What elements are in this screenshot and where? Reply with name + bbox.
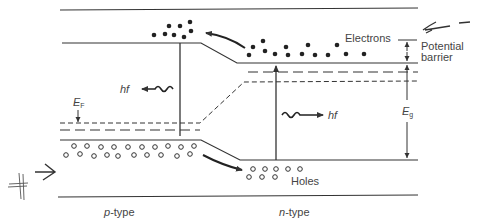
fermi-level [60, 81, 418, 123]
fermi-level-subscript: F [80, 102, 84, 109]
valence-band-edge [60, 140, 418, 160]
photon-left-icon [142, 87, 173, 92]
photon-right-icon [282, 113, 323, 118]
electrons-p-side [152, 20, 194, 40]
electron-flow-arrow [206, 33, 245, 48]
handwritten-hash-mark [8, 173, 28, 200]
handwritten-mark-top-right [423, 22, 470, 33]
band-gap-label: Eg [402, 105, 413, 121]
bottom-boundary-line [58, 195, 418, 197]
photon-right-label: hf [328, 109, 337, 121]
hole-flow-arrow [203, 155, 242, 170]
potential-barrier-label-line2: barrier [421, 51, 453, 63]
fermi-level-label: EF [73, 96, 85, 112]
electrons-label: Electrons [345, 32, 391, 44]
top-boundary-line [60, 8, 418, 10]
photon-left-label: hf [120, 83, 129, 95]
holes-label: Holes [291, 175, 319, 187]
p-type-label: p-type [104, 206, 135, 218]
n-type-label: n-type [279, 206, 310, 218]
band-gap-subscript: g [409, 111, 413, 118]
handwritten-arrow-left [35, 164, 55, 180]
holes-p-side [64, 144, 197, 159]
n-type-suffix: -type [285, 206, 309, 218]
p-type-suffix: -type [110, 206, 134, 218]
